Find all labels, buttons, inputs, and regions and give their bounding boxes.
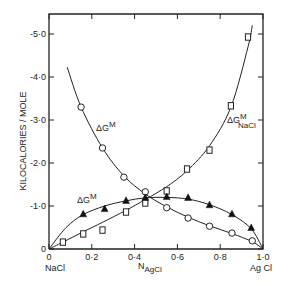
x-end-label-left: NaCl [45, 263, 65, 273]
triangle-marker [185, 194, 192, 201]
square-marker [81, 231, 86, 237]
series-label-circles-main: ΔG [96, 123, 109, 133]
circle-marker [249, 238, 255, 244]
series-label-triangles: ΔGM [77, 192, 97, 205]
circle-marker [121, 174, 127, 180]
circle-marker [229, 230, 235, 236]
circle-marker [78, 104, 84, 110]
y-axis-title: KILOCALORIES / MOLE [18, 91, 28, 190]
square-marker [207, 147, 212, 153]
triangle-marker [101, 205, 108, 212]
square-marker [143, 200, 148, 206]
chart-svg: 00·20·40·60·81·00-1·0-2·0-3·0-4·0-5·0 KI… [0, 0, 284, 286]
circle-marker [185, 215, 191, 221]
y-tick-label: 0 [41, 244, 46, 254]
series-curve [49, 197, 263, 249]
series-label-circles: ΔGM [96, 120, 116, 133]
x-axis-title-sub: AgCl [145, 265, 163, 274]
x-tick-label: 0 [46, 252, 51, 262]
y-tick-label: -2·0 [30, 158, 46, 168]
markers [60, 34, 255, 246]
series-label-triangles-sup: M [90, 192, 97, 201]
triangle-marker [248, 224, 255, 231]
y-tick-label: -3·0 [30, 115, 46, 125]
circle-marker [164, 205, 170, 211]
square-marker [100, 227, 105, 233]
x-tick-label: 0·6 [171, 252, 184, 262]
triangle-marker [206, 201, 213, 208]
series-label-squares: ΔGMNaCl [227, 112, 256, 130]
square-marker [184, 166, 189, 172]
triangle-marker [142, 194, 149, 201]
square-marker [123, 209, 128, 215]
square-marker [60, 239, 65, 245]
y-tick-label: -1·0 [30, 201, 46, 211]
y-tick-label: -5·0 [30, 29, 46, 39]
square-marker [245, 34, 250, 40]
series-label-circles-sup: M [109, 120, 116, 129]
circle-marker [99, 145, 105, 151]
series-label-squares-sup: M [240, 112, 247, 121]
series-curve [49, 25, 252, 249]
x-axis-title: NAgCl [138, 261, 162, 274]
axis-ticks: 00·20·40·60·81·00-1·0-2·0-3·0-4·0-5·0 [30, 14, 270, 262]
circle-marker [206, 223, 212, 229]
square-marker [228, 103, 233, 109]
x-tick-label: 0·8 [214, 252, 227, 262]
x-tick-label: 1·0 [256, 252, 269, 262]
x-tick-label: 0·2 [85, 252, 98, 262]
series-curve [67, 67, 263, 249]
x-end-label-right: Ag Cl [250, 263, 272, 273]
y-tick-label: -4·0 [30, 72, 46, 82]
series-label-triangles-main: ΔG [77, 195, 90, 205]
series-label-squares-sub: NaCl [238, 121, 256, 130]
